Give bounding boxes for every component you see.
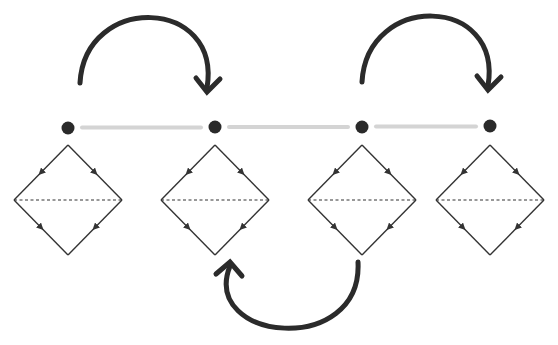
directed-edge <box>362 145 416 200</box>
directed-edge <box>14 200 68 255</box>
curved-arrow-icon <box>216 262 358 328</box>
directed-edge <box>308 200 362 255</box>
directed-edge <box>68 200 122 255</box>
directed-edge <box>490 200 544 255</box>
diamond-graph <box>308 145 416 255</box>
connector-lines <box>82 127 476 128</box>
directed-edge <box>215 200 269 255</box>
node-dot <box>356 121 369 134</box>
diagram-canvas <box>0 0 558 345</box>
directed-edge <box>68 145 122 200</box>
diamond-graph <box>161 145 269 255</box>
directed-edge <box>308 145 362 200</box>
diamonds <box>14 145 544 255</box>
directed-edge <box>14 145 68 200</box>
curved-arrow-icon <box>80 18 220 92</box>
directed-edge <box>362 200 416 255</box>
curved-arrow-icon <box>362 16 501 90</box>
node-dot <box>484 120 497 133</box>
curved-arrows <box>80 16 501 328</box>
node-dot <box>209 121 222 134</box>
diagram-svg <box>0 0 558 345</box>
directed-edge <box>161 145 215 200</box>
node-dot <box>62 122 75 135</box>
directed-edge <box>215 145 269 200</box>
directed-edge <box>436 200 490 255</box>
directed-edge <box>490 145 544 200</box>
directed-edge <box>161 200 215 255</box>
diamond-graph <box>14 145 122 255</box>
diamond-graph <box>436 145 544 255</box>
directed-edge <box>436 145 490 200</box>
